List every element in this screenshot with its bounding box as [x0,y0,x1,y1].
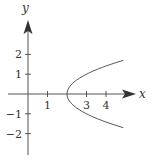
x-tick-label: 1 [44,99,51,112]
parabola-plot: x y 134−2−112 [0,0,152,163]
x-tick-label: 3 [83,99,90,112]
x-tick-label: 4 [103,99,110,112]
axes [8,20,136,155]
x-axis-label: x [139,87,146,101]
y-tick-label: −2 [6,128,22,141]
y-tick-label: 2 [15,48,22,61]
y-axis-label: y [21,1,29,15]
y-tick-label: −1 [6,108,22,121]
y-tick-label: 1 [15,68,22,81]
